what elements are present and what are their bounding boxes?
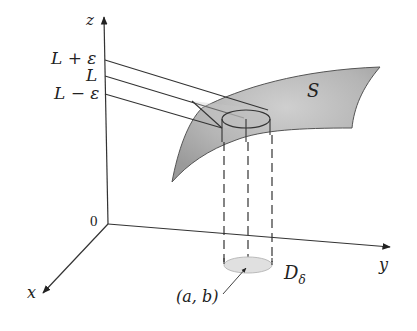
z-level-lower-label: L − ε — [53, 83, 99, 103]
z-axis — [104, 17, 108, 224]
surface-label: S — [307, 80, 319, 101]
y-axis — [108, 224, 390, 247]
level-line-upper — [105, 60, 268, 110]
x-axis-label: x — [27, 283, 36, 302]
disk-d-delta — [224, 257, 272, 273]
z-axis-label: z — [85, 11, 94, 29]
point-label: (a, b) — [176, 287, 218, 306]
x-axis — [43, 224, 108, 293]
y-axis-label: y — [378, 255, 389, 274]
surface-s — [172, 67, 380, 182]
epsilon-delta-limit-diagram: z y x 0 L + ε L L − ε S Dδ (a, b) — [0, 0, 417, 331]
origin-label: 0 — [90, 213, 98, 229]
disk-label: Dδ — [283, 262, 306, 287]
z-level-middle-label: L — [85, 65, 97, 85]
